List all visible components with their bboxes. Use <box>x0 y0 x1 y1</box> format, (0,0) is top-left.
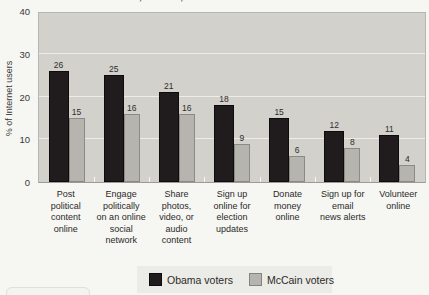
y-axis-ticks: 010203040 <box>0 0 34 200</box>
bar-value-label: 25 <box>109 64 118 74</box>
bar-wrap: 11 <box>379 135 399 182</box>
y-tick-label: 20 <box>4 92 30 103</box>
y-tick-label: 10 <box>4 134 30 145</box>
obama-swatch <box>149 273 162 286</box>
bar-wrap: 9 <box>234 144 250 182</box>
obama-bar <box>214 105 234 182</box>
bar-wrap: 25 <box>104 75 124 182</box>
obama-bar <box>379 135 399 182</box>
partial-rounded-element <box>6 287 90 295</box>
bar-wrap: 15 <box>69 118 85 182</box>
bar-value-label: 21 <box>164 81 173 91</box>
bar-group: 2116 <box>149 92 204 182</box>
bar-group: 2615 <box>39 71 94 182</box>
bar-value-label: 12 <box>330 120 339 130</box>
mccain-bar <box>289 156 305 182</box>
mccain-bar <box>344 148 360 182</box>
bar-wrap: 12 <box>324 131 344 182</box>
category-labels: PostpoliticalcontentonlineEngagepolitica… <box>38 189 426 247</box>
bar-wrap: 21 <box>159 92 179 182</box>
bar-value-label: 6 <box>295 145 300 155</box>
bar-value-label: 4 <box>405 154 410 164</box>
bar-wrap: 26 <box>49 71 69 182</box>
bar-value-label: 15 <box>72 107 81 117</box>
mccain-bar <box>179 114 195 182</box>
category-label: Sharephotos,video, oraudiocontent <box>149 189 204 247</box>
bar-value-label: 8 <box>350 137 355 147</box>
legend-item-mccain: McCain voters <box>249 273 334 286</box>
legend: Obama voters McCain voters <box>137 266 332 293</box>
category-label: Sign uponline forelectionupdates <box>204 189 259 247</box>
bar-value-label: 18 <box>219 94 228 104</box>
bar-group: 2516 <box>94 75 149 182</box>
mccain-bar <box>234 144 250 182</box>
y-tick-label: 40 <box>4 6 30 17</box>
obama-bar <box>104 75 124 182</box>
bar-value-label: 11 <box>385 124 394 134</box>
mccain-bar <box>399 165 415 182</box>
obama-bar <box>324 131 344 182</box>
mccain-bar <box>69 118 85 182</box>
bar-value-label: 16 <box>182 103 191 113</box>
category-label: Engagepoliticallyon an onlinesocialnetwo… <box>93 189 148 247</box>
bar-group: 156 <box>260 118 315 182</box>
chart-title: Obama, McCain, and Internet Activism in … <box>0 0 429 2</box>
bar-wrap: 18 <box>214 105 234 182</box>
bar-value-label: 16 <box>127 103 136 113</box>
y-tick-label: 0 <box>4 177 30 188</box>
bar-wrap: 16 <box>179 114 195 182</box>
bar-wrap: 15 <box>269 118 289 182</box>
bar-wrap: 16 <box>124 114 140 182</box>
category-label: Volunteeronline <box>371 189 426 247</box>
bar-wrap: 4 <box>399 165 415 182</box>
bar-group: 114 <box>370 135 425 182</box>
legend-item-obama: Obama voters <box>149 273 233 286</box>
category-label: Postpoliticalcontentonline <box>38 189 93 247</box>
y-tick-label: 30 <box>4 49 30 60</box>
bar-value-label: 9 <box>240 133 245 143</box>
legend-label-obama: Obama voters <box>167 274 233 286</box>
bar-group: 189 <box>204 105 259 182</box>
bar-wrap: 8 <box>344 148 360 182</box>
bar-value-label: 26 <box>54 60 63 70</box>
category-label: Sign up foremailnews alerts <box>315 189 370 247</box>
bar-wrap: 6 <box>289 156 305 182</box>
obama-bar <box>269 118 289 182</box>
chart-figure: Obama, McCain, and Internet Activism in … <box>0 0 429 295</box>
bar-groups: 261525162116189156128114 <box>39 13 425 182</box>
bar-value-label: 15 <box>274 107 283 117</box>
legend-label-mccain: McCain voters <box>267 274 334 286</box>
obama-bar <box>49 71 69 182</box>
plot-area: 261525162116189156128114 <box>38 12 426 183</box>
category-label: Donatemoneyonline <box>260 189 315 247</box>
obama-bar <box>159 92 179 182</box>
mccain-bar <box>124 114 140 182</box>
bar-group: 128 <box>315 131 370 182</box>
mccain-swatch <box>249 273 262 286</box>
